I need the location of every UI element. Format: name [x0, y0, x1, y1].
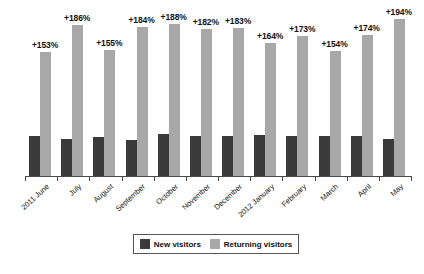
bar-new-visitors	[383, 139, 394, 176]
legend-swatch-new-visitors-icon	[140, 239, 150, 249]
x-axis-tick	[89, 176, 90, 181]
bar-value-label: +174%	[354, 23, 380, 33]
bar-returning-visitors	[72, 25, 83, 176]
bar-value-label: +183%	[225, 16, 251, 26]
bar-returning-visitors	[233, 28, 244, 176]
bar-returning-visitors	[201, 29, 212, 176]
bar-returning-visitors	[394, 19, 405, 176]
x-axis-tick	[379, 176, 380, 181]
plot-area: +153%+186%+155%+184%+188%+182%+183%+164%…	[25, 14, 411, 176]
bar-group: +194%	[379, 14, 411, 176]
x-axis-tick	[250, 176, 251, 181]
x-axis-tick	[282, 176, 283, 181]
x-axis-tick	[315, 176, 316, 181]
legend-item-new-visitors: New visitors	[140, 239, 201, 249]
x-axis-tick	[25, 176, 26, 181]
x-axis-label: July	[77, 173, 93, 189]
bar-group: +154%	[315, 14, 347, 176]
legend-swatch-returning-visitors-icon	[210, 239, 220, 249]
bar-group: +174%	[347, 14, 379, 176]
bar-value-label: +173%	[289, 24, 315, 34]
bar-group: +164%	[250, 14, 282, 176]
bar-value-label: +153%	[32, 40, 58, 50]
x-axis-tick	[154, 176, 155, 181]
bar-group: +184%	[122, 14, 154, 176]
legend-label-new-visitors: New visitors	[154, 240, 201, 249]
bar-group: +155%	[89, 14, 121, 176]
legend-label-returning-visitors: Returning visitors	[224, 240, 292, 249]
bar-returning-visitors	[330, 51, 341, 176]
bar-value-label: +188%	[161, 12, 187, 22]
bar-value-label: +155%	[96, 38, 122, 48]
bar-group: +153%	[25, 14, 57, 176]
bar-new-visitors	[93, 137, 104, 176]
legend-item-returning-visitors: Returning visitors	[210, 239, 292, 249]
bar-value-label: +184%	[128, 15, 154, 25]
x-axis-tick	[186, 176, 187, 181]
x-axis-tick	[57, 176, 58, 181]
x-axis-tick	[122, 176, 123, 181]
chart-legend: New visitors Returning visitors	[133, 234, 299, 254]
x-axis-tick	[411, 176, 412, 181]
bar-returning-visitors	[104, 50, 115, 176]
bar-value-label: +154%	[321, 39, 347, 49]
bar-group: +182%	[186, 14, 218, 176]
bar-returning-visitors	[169, 24, 180, 176]
bar-value-label: +186%	[64, 13, 90, 23]
bar-value-label: +182%	[193, 17, 219, 27]
x-axis-tick	[218, 176, 219, 181]
bar-returning-visitors	[40, 52, 51, 176]
bar-group: +173%	[282, 14, 314, 176]
bar-value-label: +194%	[386, 7, 412, 17]
bar-new-visitors	[351, 136, 362, 176]
bar-returning-visitors	[265, 43, 276, 176]
bar-group: +186%	[57, 14, 89, 176]
x-axis-category-labels: 2011 JuneJulyAugustSeptemberOctoberNovem…	[25, 176, 411, 236]
bar-new-visitors	[29, 136, 40, 177]
bar-returning-visitors	[137, 27, 148, 176]
bar-group: +188%	[154, 14, 186, 176]
x-axis-tick	[347, 176, 348, 181]
bar-value-label: +164%	[257, 31, 283, 41]
bar-returning-visitors	[362, 35, 373, 176]
bar-group: +183%	[218, 14, 250, 176]
visitors-bar-chart: +153%+186%+155%+184%+188%+182%+183%+164%…	[0, 0, 424, 274]
